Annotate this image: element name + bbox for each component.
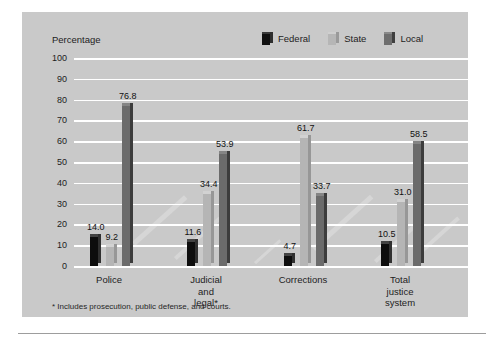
local-swatch-icon (384, 32, 395, 45)
bar-police-federal[interactable]: 14.0 (90, 237, 101, 266)
gridline: 40 (74, 183, 468, 185)
legend-label-federal: Federal (278, 33, 310, 44)
bottom-divider (18, 333, 486, 334)
gridline: 30 (74, 204, 468, 206)
bar-corrections-federal[interactable]: 4.7 (284, 256, 295, 266)
plot-area: 100 90 80 70 60 50 40 30 (74, 58, 468, 266)
gridline: 20 (74, 224, 468, 226)
y-tick-label: 70 (57, 115, 67, 125)
category-label-corrections: Corrections (279, 274, 328, 286)
category-label-total: Total justice system (385, 274, 415, 309)
y-tick-label: 90 (57, 74, 67, 84)
y-tick-label: 80 (57, 95, 67, 105)
y-tick-label: 0 (62, 261, 67, 271)
legend-label-local: Local (400, 33, 423, 44)
bar-value-label: 33.7 (313, 181, 331, 191)
chart-legend: Federal State Local (262, 30, 423, 46)
bar-value-label: 61.7 (297, 123, 315, 133)
gridline: 10 (74, 245, 468, 247)
bar-value-label: 10.5 (378, 229, 396, 239)
legend-item-federal[interactable]: Federal (262, 32, 310, 45)
y-tick-label: 50 (57, 157, 67, 167)
gridline: 60 (74, 141, 468, 143)
federal-swatch-icon (262, 32, 273, 45)
bar-value-label: 11.6 (184, 227, 201, 237)
gridline: 90 (74, 79, 468, 81)
legend-item-local[interactable]: Local (384, 32, 423, 45)
y-tick-label: 40 (57, 178, 67, 188)
state-swatch-icon (328, 32, 339, 45)
bar-value-label: 76.8 (119, 91, 137, 101)
bar-police-state[interactable]: 9.2 (106, 247, 117, 266)
chart-footnote: * Includes prosecution, public defense, … (52, 302, 231, 311)
gridline: 100 (74, 58, 468, 60)
legend-item-state[interactable]: State (328, 32, 366, 45)
bar-corrections-state[interactable]: 61.7 (300, 138, 311, 266)
gridline: 50 (74, 162, 468, 164)
bar-value-label: 31.0 (394, 187, 412, 197)
y-tick-label: 30 (57, 199, 67, 209)
bar-value-label: 34.4 (200, 179, 218, 189)
y-axis-title: Percentage (52, 34, 101, 45)
bar-value-label: 14.0 (87, 222, 105, 232)
category-label-police: Police (96, 274, 122, 286)
bar-value-label: 4.7 (283, 241, 296, 251)
chart-panel: Federal State Local Percentage 100 (22, 12, 468, 317)
bar-value-label: 9.2 (105, 232, 118, 242)
bar-police-local[interactable]: 76.8 (122, 106, 133, 266)
bar-total-state[interactable]: 31.0 (397, 202, 408, 267)
x-axis-line (74, 266, 468, 268)
bar-corrections-local[interactable]: 33.7 (316, 196, 327, 266)
y-tick-label: 60 (57, 136, 67, 146)
y-tick-label: 20 (57, 219, 67, 229)
bar-total-federal[interactable]: 10.5 (381, 244, 392, 266)
legend-label-state: State (344, 33, 366, 44)
chart-figure: Federal State Local Percentage 100 (0, 0, 489, 340)
bar-total-local[interactable]: 58.5 (413, 144, 424, 266)
bar-value-label: 58.5 (410, 129, 428, 139)
y-tick-label: 10 (57, 240, 67, 250)
bar-judicial-local[interactable]: 53.9 (219, 154, 230, 266)
bar-value-label: 53.9 (216, 139, 234, 149)
y-tick-label: 100 (52, 53, 67, 63)
bar-judicial-federal[interactable]: 11.6 (187, 242, 198, 266)
gridline: 70 (74, 120, 468, 122)
bar-judicial-state[interactable]: 34.4 (203, 194, 214, 266)
